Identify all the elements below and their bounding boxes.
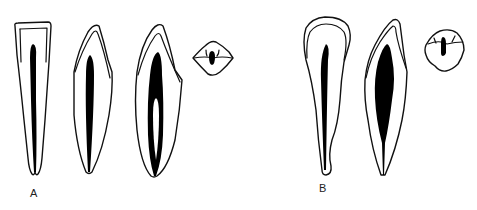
group-a-label: A [30, 188, 37, 199]
group-b-label: B [319, 183, 326, 194]
group-b-tooth-2-section [365, 20, 407, 176]
group-b [304, 17, 464, 175]
tooth-anatomy-diagram [0, 0, 477, 210]
group-a-tooth-3-section [136, 25, 183, 177]
group-a [15, 22, 233, 177]
group-a-tooth-2-section [74, 25, 112, 173]
group-a-tooth-1-section [15, 22, 51, 175]
group-a-cross-section [193, 42, 233, 76]
group-b-tooth-1-section [304, 17, 350, 175]
group-b-cross-section [425, 30, 464, 71]
